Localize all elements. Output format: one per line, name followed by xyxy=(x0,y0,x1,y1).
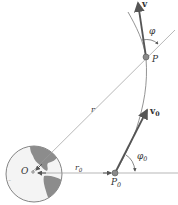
radius-line-r xyxy=(33,30,175,171)
point-P xyxy=(143,54,149,60)
label-r: r xyxy=(91,106,95,114)
earth-globe: ~ xyxy=(6,146,62,203)
svg-text:~: ~ xyxy=(8,178,11,183)
label-v: v xyxy=(142,0,147,9)
label-v0: v0 xyxy=(150,107,160,117)
point-P0 xyxy=(112,170,118,176)
label-phi0: φ0 xyxy=(137,152,147,162)
label-phi: φ xyxy=(149,27,155,36)
velocity-vector-v xyxy=(138,3,146,57)
label-P: P xyxy=(152,55,158,64)
label-P0: P0 xyxy=(111,178,121,188)
velocity-vector-v0 xyxy=(115,110,147,173)
label-r0: r0 xyxy=(75,164,82,174)
angle-arc-phi0 xyxy=(126,155,135,171)
trajectory-curve xyxy=(115,12,147,173)
label-O: O xyxy=(21,167,28,176)
